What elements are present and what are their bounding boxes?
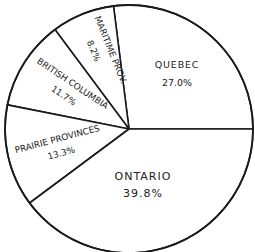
label-ontario-name: ONTARIO xyxy=(115,170,172,183)
pie-chart: QUEBEC 27.0% ONTARIO 39.8% PRAIRIE PROVI… xyxy=(0,0,255,252)
label-quebec-name: QUEBEC xyxy=(155,59,199,70)
label-ontario-value: 39.8% xyxy=(123,187,163,200)
label-quebec-value: 27.0% xyxy=(162,77,192,88)
